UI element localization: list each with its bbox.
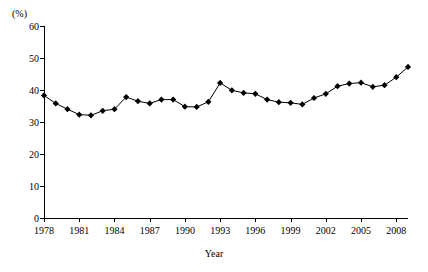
x-tick-label: 1981 — [69, 225, 89, 236]
data-point-marker — [147, 100, 153, 106]
chart-container: (%) 0102030405060 1978198119841987199019… — [0, 0, 428, 272]
x-tick-mark — [255, 218, 256, 222]
data-point-marker — [358, 80, 364, 86]
x-tick-mark — [291, 218, 292, 222]
x-tick-mark — [44, 218, 45, 222]
y-tick-label: 10 — [29, 181, 39, 192]
x-tick-label: 2008 — [386, 225, 406, 236]
y-tick-label: 30 — [29, 117, 39, 128]
x-tick-label: 1993 — [210, 225, 230, 236]
data-point-marker — [287, 100, 293, 106]
data-point-marker — [217, 80, 223, 86]
x-tick-mark — [79, 218, 80, 222]
x-tick-label: 1984 — [104, 225, 124, 236]
x-tick-mark — [396, 218, 397, 222]
y-tick-label: 0 — [34, 213, 39, 224]
data-point-marker — [64, 106, 70, 112]
data-point-marker — [76, 112, 82, 118]
x-tick-mark — [361, 218, 362, 222]
data-point-marker — [334, 83, 340, 89]
data-point-marker — [381, 82, 387, 88]
data-point-marker — [182, 104, 188, 110]
y-tick-label: 20 — [29, 149, 39, 160]
x-tick-label: 2005 — [351, 225, 371, 236]
data-point-marker — [100, 108, 106, 114]
x-tick-mark — [220, 218, 221, 222]
data-point-marker — [323, 91, 329, 97]
x-tick-mark — [185, 218, 186, 222]
data-point-marker — [311, 95, 317, 101]
y-tick-label: 40 — [29, 85, 39, 96]
data-point-marker — [264, 97, 270, 103]
data-point-marker — [276, 99, 282, 105]
data-point-marker — [88, 112, 94, 118]
data-point-marker — [229, 87, 235, 93]
series-line — [44, 67, 408, 115]
x-tick-label: 1990 — [175, 225, 195, 236]
x-tick-label: 2002 — [316, 225, 336, 236]
data-point-marker — [53, 100, 59, 106]
data-point-marker — [135, 98, 141, 104]
x-tick-label: 1987 — [140, 225, 160, 236]
data-point-marker — [370, 84, 376, 90]
plot-area: 0102030405060 19781981198419871990199319… — [44, 26, 408, 218]
x-tick-mark — [150, 218, 151, 222]
x-tick-label: 1978 — [34, 225, 54, 236]
data-point-marker — [194, 104, 200, 110]
data-point-marker — [299, 101, 305, 107]
data-series — [44, 26, 408, 218]
x-tick-label: 1996 — [245, 225, 265, 236]
data-point-marker — [346, 81, 352, 87]
x-tick-mark — [326, 218, 327, 222]
data-point-marker — [205, 99, 211, 105]
data-point-marker — [41, 92, 47, 98]
y-tick-label: 50 — [29, 53, 39, 64]
y-tick-label: 60 — [29, 21, 39, 32]
y-axis-unit-label: (%) — [12, 8, 27, 19]
x-tick-mark — [114, 218, 115, 222]
x-axis-title: Year — [0, 248, 428, 259]
data-point-marker — [252, 91, 258, 97]
x-axis-line — [44, 218, 408, 219]
data-point-marker — [158, 97, 164, 103]
data-point-marker — [241, 90, 247, 96]
x-tick-label: 1999 — [281, 225, 301, 236]
data-point-marker — [170, 97, 176, 103]
